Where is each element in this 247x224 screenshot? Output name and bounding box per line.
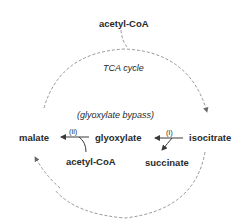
succinate-label: succinate <box>145 158 189 168</box>
acetyl-coa-entry-line <box>121 30 128 48</box>
tca-cycle-label: TCA cycle <box>103 64 144 73</box>
isocitrate-label: isocitrate <box>189 133 231 143</box>
malate-label: malate <box>19 133 49 143</box>
tca-arc-left-lower <box>35 157 60 188</box>
tca-arc-top-right <box>44 49 207 112</box>
succinate-branch-arrow <box>162 138 172 150</box>
enzyme-i-label: (i) <box>166 129 173 137</box>
acetyl-coa-bottom-label: acetyl-CoA <box>66 157 116 167</box>
enzyme-ii-label: (ii) <box>69 128 77 136</box>
glyoxylate-label: glyoxylate <box>95 133 141 143</box>
glyoxylate-bypass-label: (glyoxylate bypass) <box>77 111 154 120</box>
acetyl-coa-join-line <box>79 137 86 152</box>
acetyl-coa-top-label: acetyl-CoA <box>99 19 149 29</box>
